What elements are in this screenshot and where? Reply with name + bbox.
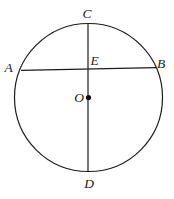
point-label-e: E <box>90 53 100 68</box>
point-label-o: O <box>74 90 84 105</box>
point-label-a: A <box>3 60 13 75</box>
point-label-d: D <box>83 176 94 191</box>
point-label-c: C <box>82 6 92 21</box>
circle-diagram-canvas: C D A B E O <box>0 0 174 199</box>
geometry-figure: C D A B E O <box>0 0 174 199</box>
point-label-b: B <box>157 56 165 71</box>
center-dot <box>86 95 91 100</box>
